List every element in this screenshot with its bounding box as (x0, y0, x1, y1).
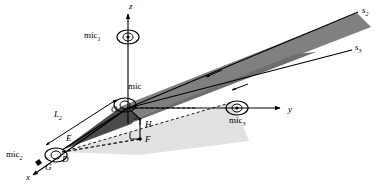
mic-1-label: mic1 (84, 31, 101, 42)
axis-label-x: x (26, 173, 30, 182)
dimension-label-L2: L2 (54, 110, 62, 121)
axis-label-y: y (288, 105, 292, 114)
mic-2-label: mic2 (6, 150, 23, 161)
point-label-E: E (66, 134, 72, 143)
point-label-D: D (62, 155, 69, 164)
acoustic-geometry-figure: z y x mic1 mic mic3 mic2 s2 s3 O H F E D… (0, 0, 382, 196)
incident-plane-shape (122, 13, 371, 117)
point-label-O: O (111, 105, 118, 114)
point-F-dot (138, 137, 142, 141)
point-G-marker (35, 159, 42, 166)
ray-s3-direction-arrow (232, 84, 248, 90)
ray-s2-label: s2 (362, 6, 369, 17)
mic-center-label: mic (128, 82, 142, 91)
point-label-F: F (145, 135, 151, 144)
axis-label-z: z (129, 2, 133, 11)
ray-s2-line (128, 12, 358, 108)
figure-vector-layer (0, 0, 382, 196)
ray-s3-line (128, 50, 352, 108)
ray-s3-label: s3 (355, 43, 362, 54)
point-H-dot (139, 118, 142, 121)
mic-3-label: mic3 (229, 116, 246, 127)
point-label-G: G (45, 163, 52, 172)
point-label-H: H (145, 120, 152, 129)
